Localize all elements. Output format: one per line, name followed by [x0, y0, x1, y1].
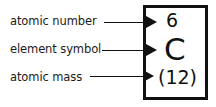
callout-label-atomic-mass: atomic mass: [10, 72, 82, 84]
element-annotation-diagram: atomic number element symbol atomic mass…: [0, 0, 216, 107]
callout-label-element-symbol: element symbol: [10, 44, 101, 56]
atomic-mass-value: (12): [158, 68, 197, 87]
callout-label-atomic-number: atomic number: [10, 16, 97, 28]
element-symbol-value: C: [164, 34, 186, 65]
atomic-number-value: 6: [166, 11, 178, 30]
leader-line-element-symbol: [102, 50, 149, 52]
leader-line-atomic-mass: [90, 76, 149, 78]
